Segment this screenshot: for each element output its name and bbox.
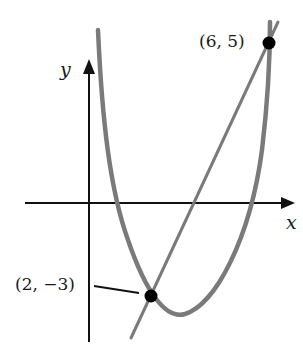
point-label-6-5: (6, 5) (199, 31, 245, 51)
y-axis-label: y (60, 58, 71, 80)
x-axis-label: x (286, 211, 297, 233)
parabola-curve (98, 22, 270, 315)
point-6-5 (263, 37, 276, 50)
label-leader-line (94, 286, 139, 293)
point-label-2-neg3: (2, −3) (15, 274, 75, 294)
plot-canvas (0, 0, 303, 356)
diagram: y x (6, 5) (2, −3) (0, 0, 303, 356)
y-axis-arrow-icon (83, 59, 95, 74)
point-2-neg3 (145, 290, 158, 303)
x-axis-arrow-icon (281, 197, 295, 209)
